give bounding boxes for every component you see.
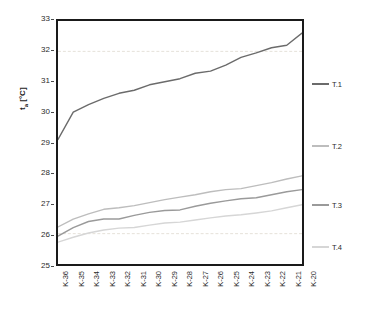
plot-area (56, 19, 304, 266)
x-tick-label: K-26 (216, 271, 225, 287)
x-tick-label: K-36 (61, 271, 70, 287)
y-axis: 252627282930313233 (30, 19, 54, 266)
y-tick-label: 28 (41, 169, 50, 177)
y-axis-title: ta [°C] (18, 87, 29, 110)
legend-label: T.1 (332, 80, 342, 89)
x-tick-label: K-25 (231, 271, 240, 287)
legend-item-t-1[interactable]: T.1 (312, 79, 342, 89)
series-lines (58, 21, 302, 264)
legend-swatch (312, 145, 329, 147)
x-tick-label: K-24 (247, 271, 256, 287)
x-tick-label: K-27 (200, 271, 209, 287)
series-line-t-1 (58, 33, 302, 139)
y-tick-mark (51, 204, 54, 205)
x-tick-label: K-30 (154, 271, 163, 287)
legend-label: T.3 (332, 201, 342, 210)
x-tick-label: K-32 (123, 271, 132, 287)
y-tick-label: 33 (41, 15, 50, 23)
y-tick-mark (51, 112, 54, 113)
legend-swatch (312, 83, 329, 86)
y-tick-label: 32 (41, 46, 50, 54)
x-tick-label: K-31 (138, 271, 147, 287)
y-tick-label: 29 (41, 139, 50, 147)
legend-item-t-2[interactable]: T.2 (312, 141, 342, 151)
y-tick-mark (51, 235, 54, 236)
legend-label: T.4 (332, 243, 342, 252)
x-axis: K-36K-35K-34K-33K-32K-31K-30K-29K-28K-27… (56, 268, 304, 310)
y-tick-mark (51, 173, 54, 174)
x-tick-label: K-20 (309, 271, 318, 287)
y-tick-label: 26 (41, 231, 50, 239)
legend-swatch (312, 204, 329, 206)
x-tick-label: K-34 (92, 271, 101, 287)
chart-legend: T.1T.2T.3T.4 (312, 19, 372, 266)
x-tick-label: K-28 (185, 271, 194, 287)
x-tick-label: K-23 (262, 271, 271, 287)
x-tick-label: K-35 (76, 271, 85, 287)
y-tick-label: 31 (41, 77, 50, 85)
legend-swatch (312, 246, 329, 248)
y-tick-mark (51, 266, 54, 267)
y-tick-mark (51, 19, 54, 20)
y-tick-label: 25 (41, 262, 50, 270)
x-tick-label: K-21 (293, 271, 302, 287)
y-tick-mark (51, 81, 54, 82)
x-tick-label: K-29 (169, 271, 178, 287)
x-tick-label: K-33 (107, 271, 116, 287)
legend-label: T.2 (332, 142, 342, 151)
legend-item-t-3[interactable]: T.3 (312, 200, 342, 210)
chart-figure: 252627282930313233 ta [°C] K-36K-35K-34K… (0, 0, 372, 317)
legend-item-t-4[interactable]: T.4 (312, 242, 342, 252)
x-tick-label: K-22 (278, 271, 287, 287)
y-tick-label: 30 (41, 108, 50, 116)
y-tick-mark (51, 143, 54, 144)
y-tick-mark (51, 50, 54, 51)
y-tick-label: 27 (41, 200, 50, 208)
series-line-t-2 (58, 176, 302, 227)
